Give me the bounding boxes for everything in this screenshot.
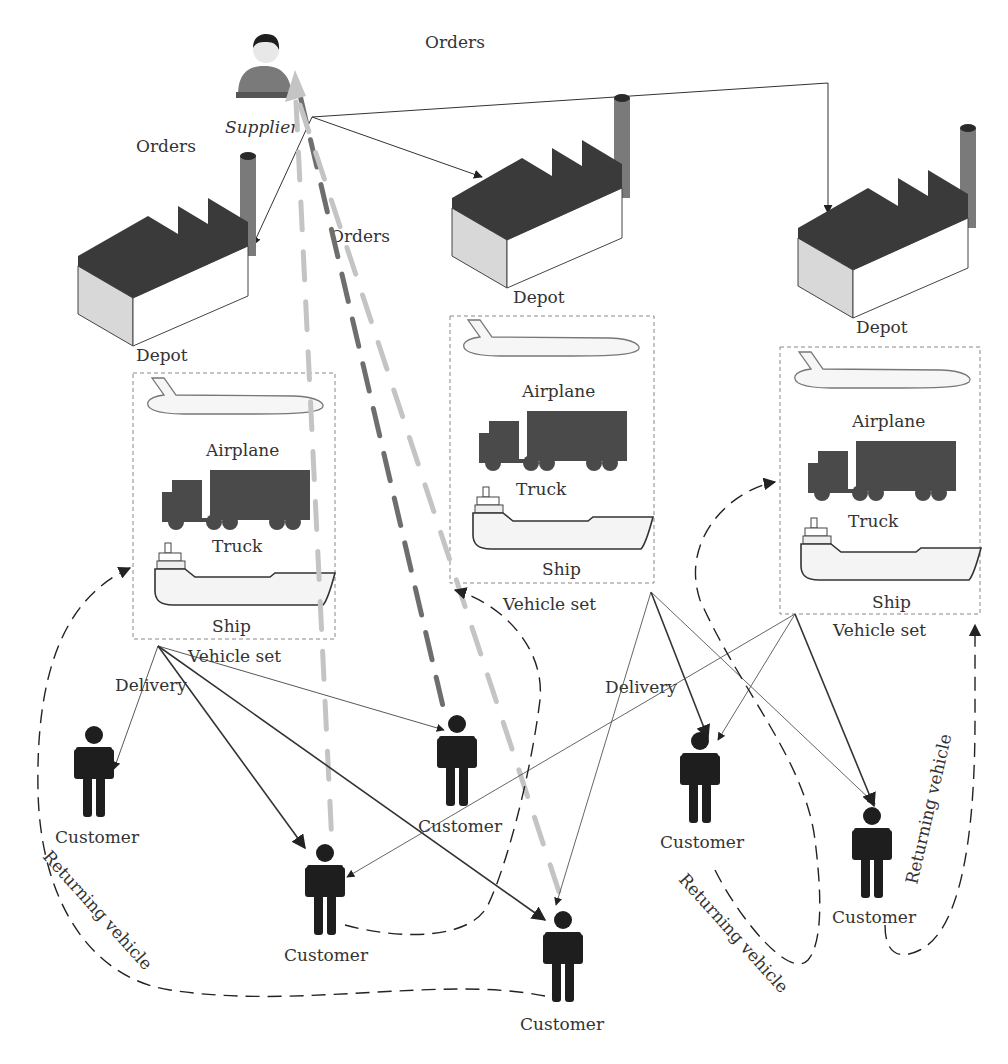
vehicle-airplane-label: Airplane xyxy=(205,440,279,460)
airplane-icon xyxy=(795,352,970,388)
customer-6-icon xyxy=(852,807,892,898)
returning-vehicle-label-right: Returning vehicle xyxy=(901,732,955,886)
vehicle-ship-label: Ship xyxy=(212,616,251,636)
vehicle-truck-label: Truck xyxy=(516,479,567,499)
vehicle-set-3: Airplane Truck Ship Vehicle set xyxy=(780,347,981,640)
customer-2-icon xyxy=(437,715,477,806)
vehicle-airplane-label: Airplane xyxy=(851,411,925,431)
customer-3-icon xyxy=(305,844,345,935)
truck-icon xyxy=(479,411,627,471)
vehicle-ship-label: Ship xyxy=(542,559,581,579)
vehicle-truck-label: Truck xyxy=(848,511,899,531)
vehicle-set-label: Vehicle set xyxy=(832,620,926,640)
truck-icon xyxy=(162,470,310,530)
customer-5-icon xyxy=(680,732,720,823)
vehicle-set-label: Vehicle set xyxy=(187,646,281,666)
airplane-icon xyxy=(148,378,323,414)
customer-1-icon xyxy=(74,726,114,817)
vehicle-set-label: Vehicle set xyxy=(502,594,596,614)
depot-1-icon xyxy=(78,152,256,346)
orders-label-left: Orders xyxy=(136,136,196,156)
delivery-label-left: Delivery xyxy=(115,675,187,695)
orders-label-top: Orders xyxy=(425,32,485,52)
supplier-label: Supplier xyxy=(225,117,299,137)
supplier-icon xyxy=(236,34,292,98)
vehicle-set-2: Airplane Truck Ship Vehicle set xyxy=(450,316,654,614)
customer-1-label: Customer xyxy=(55,827,140,847)
customer-6-label: Customer xyxy=(832,907,917,927)
depot-1-label: Depot xyxy=(136,345,188,365)
vehicle-set-1: Airplane Truck Ship Vehicle set xyxy=(133,373,335,666)
delivery-arrows xyxy=(114,592,875,920)
delivery-label-right: Delivery xyxy=(605,677,677,697)
customer-3-label: Customer xyxy=(284,945,369,965)
returning-vehicle-label-middle: Returning vehicle xyxy=(675,869,793,996)
depot-2-icon xyxy=(452,94,630,288)
customer-4-label: Customer xyxy=(520,1014,605,1034)
vehicle-truck-label: Truck xyxy=(212,536,263,556)
depot-3-label: Depot xyxy=(856,317,908,337)
vehicle-airplane-label: Airplane xyxy=(521,381,595,401)
truck-icon xyxy=(808,441,956,501)
airplane-icon xyxy=(464,320,639,356)
depot-3-icon xyxy=(798,124,976,318)
customer-5-label: Customer xyxy=(660,832,745,852)
vehicle-ship-label: Ship xyxy=(872,592,911,612)
depot-2-label: Depot xyxy=(513,287,565,307)
customer-4-icon xyxy=(543,911,583,1002)
customer-2-label: Customer xyxy=(418,816,503,836)
returning-vehicle-label-left: Returning vehicle xyxy=(39,846,157,973)
supply-chain-diagram: Supplier Orders Orders Orders Depot Depo… xyxy=(0,0,1008,1064)
orders-label-center: Orders xyxy=(330,226,390,246)
